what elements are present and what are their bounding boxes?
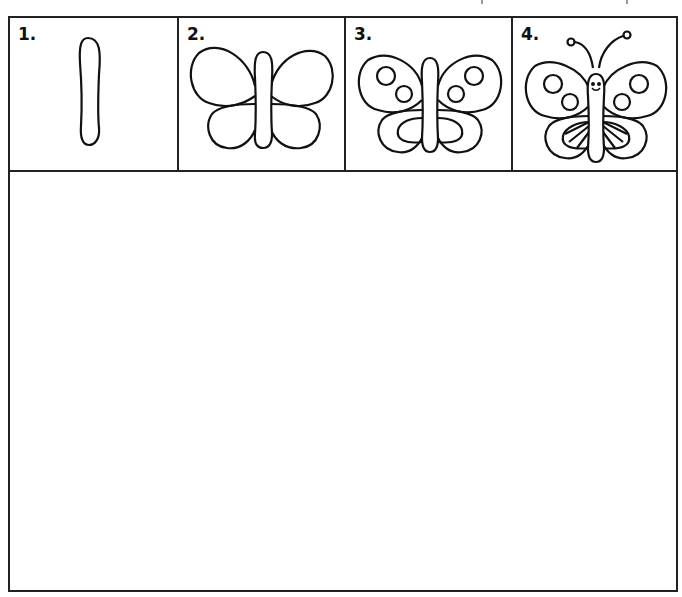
blank-drawing-area[interactable] xyxy=(10,172,676,590)
butterfly-spots-drawing-icon xyxy=(346,18,513,170)
butterfly-body-drawing-icon xyxy=(10,18,177,170)
step-4-panel: 4. xyxy=(511,18,676,170)
cropped-text-mark xyxy=(626,0,628,4)
step-3-panel: 3. xyxy=(344,18,511,170)
worksheet-frame: 1. 2. 3. xyxy=(8,16,678,592)
step-1-panel: 1. xyxy=(10,18,177,170)
butterfly-complete-drawing-icon xyxy=(513,18,678,170)
steps-row: 1. 2. 3. xyxy=(10,18,676,172)
cropped-text-mark xyxy=(481,0,483,4)
butterfly-wings-drawing-icon xyxy=(179,18,346,170)
step-2-panel: 2. xyxy=(177,18,344,170)
